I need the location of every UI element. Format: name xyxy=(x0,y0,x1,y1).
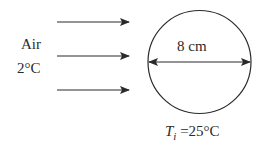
initial-temperature-label: Ti =25°C xyxy=(165,124,220,142)
fluid-name-label: Air xyxy=(21,37,41,52)
fluid-temperature-label: 2°C xyxy=(17,61,41,76)
diameter-label: 8 cm xyxy=(177,39,207,54)
temp-value: =25°C xyxy=(176,123,219,139)
